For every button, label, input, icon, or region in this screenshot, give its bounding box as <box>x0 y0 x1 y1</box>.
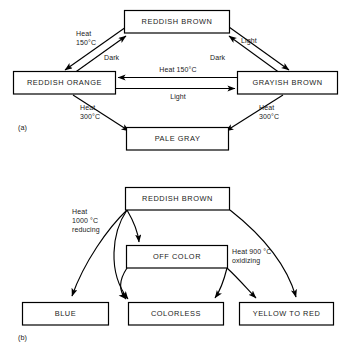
edge-off-color-to-colorless-right <box>215 268 227 298</box>
node-pale-gray: PALE GRAY <box>127 128 229 151</box>
edge-reddish-brown-to-reddish-orange <box>65 27 126 70</box>
edge-label-heat-900-oxidizing: Heat 900 °C oxidizing <box>232 248 271 265</box>
svg-text:REDDISH ORANGE: REDDISH ORANGE <box>27 78 102 87</box>
svg-text:300°C: 300°C <box>80 113 100 120</box>
edge-label-heat-300-right: Heat 300°C <box>259 104 279 120</box>
edge-reddish-brown-b-to-off-color <box>127 210 139 242</box>
svg-text:Heat: Heat <box>259 104 274 111</box>
svg-text:REDDISH BROWN: REDDISH BROWN <box>142 17 213 26</box>
svg-text:PALE GRAY: PALE GRAY <box>155 134 201 143</box>
figure-canvas: REDDISH BROWN REDDISH ORANGE GRAYISH BRO… <box>0 0 353 354</box>
edge-off-color-to-yellow-to-red <box>227 268 256 298</box>
edge-off-color-to-colorless <box>120 268 127 299</box>
svg-text:BLUE: BLUE <box>55 309 77 318</box>
svg-text:Heat: Heat <box>72 208 87 215</box>
svg-text:oxidizing: oxidizing <box>232 257 260 265</box>
svg-text:YELLOW TO RED: YELLOW TO RED <box>253 309 321 318</box>
edge-label-heat-150-left: Heat 150°C <box>76 30 96 46</box>
node-yellow-to-red: YELLOW TO RED <box>240 303 334 326</box>
edge-label-light-top-right: Light <box>241 37 257 45</box>
edge-label-heat-300-left: Heat 300°C <box>80 104 100 120</box>
edge-label-dark-left: Dark <box>104 54 120 61</box>
node-colorless: COLORLESS <box>129 303 224 326</box>
svg-text:Heat: Heat <box>80 104 95 111</box>
node-grayish-brown: GRAYISH BROWN <box>238 72 338 95</box>
panel-caption-a: (a) <box>18 123 27 132</box>
node-reddish-brown-a: REDDISH BROWN <box>125 11 230 34</box>
edge-label-dark-right: Dark <box>210 54 226 61</box>
svg-text:GRAYISH BROWN: GRAYISH BROWN <box>252 78 322 87</box>
svg-text:COLORLESS: COLORLESS <box>151 309 201 318</box>
node-reddish-orange: REDDISH ORANGE <box>14 72 116 95</box>
color-transformation-diagram: REDDISH BROWN REDDISH ORANGE GRAYISH BRO… <box>0 0 353 354</box>
edge-label-heat-150-center: Heat 150°C <box>159 66 196 73</box>
svg-text:Heat: Heat <box>76 30 91 37</box>
svg-text:reducing: reducing <box>72 226 100 234</box>
node-reddish-brown-b: REDDISH BROWN <box>126 188 230 211</box>
node-blue: BLUE <box>23 303 109 326</box>
edge-label-light-center: Light <box>170 93 186 101</box>
svg-text:300°C: 300°C <box>259 113 279 120</box>
svg-text:1000 °C: 1000 °C <box>72 217 98 224</box>
edge-label-heat-1000-reducing: Heat 1000 °C reducing <box>72 208 100 234</box>
svg-text:REDDISH BROWN: REDDISH BROWN <box>142 194 213 203</box>
node-off-color: OFF COLOR <box>127 246 228 269</box>
svg-text:150°C: 150°C <box>76 39 96 46</box>
svg-text:OFF COLOR: OFF COLOR <box>153 252 201 261</box>
panel-caption-b: (b) <box>18 333 27 342</box>
svg-text:Heat 900 °C: Heat 900 °C <box>232 248 271 255</box>
edge-reddish-brown-to-grayish-brown <box>229 27 289 70</box>
